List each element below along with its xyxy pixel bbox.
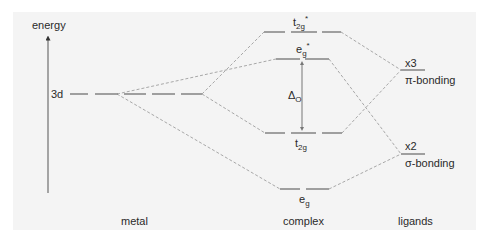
connector-3d-eg-star [117, 59, 276, 94]
level-label-eg-star: eg* [296, 44, 310, 55]
column-label-complex: complex [283, 216, 324, 227]
level-label-eg: eg [299, 194, 310, 205]
ligand-sigma-label: σ-bonding [405, 158, 455, 169]
connector-t2g-pi [342, 70, 401, 133]
column-label-ligands: ligands [398, 216, 433, 227]
connector-3d-t2g-star [202, 32, 264, 94]
connector-eg-sigma [329, 154, 401, 189]
connector-3d-eg [117, 94, 280, 189]
column-label-metal: metal [121, 216, 148, 227]
delta-o-label: ΔO [288, 90, 302, 101]
ligand-pi-multiplicity: x3 [405, 58, 417, 69]
ligand-sigma-multiplicity: x2 [405, 141, 417, 152]
ligand-pi-label: π-bonding [405, 75, 455, 86]
connector-t2g-star-pi [341, 32, 401, 70]
connector-eg-star-sigma [329, 59, 401, 154]
level-label-t2g-star: t2g* [293, 17, 308, 28]
energy-levels [70, 32, 425, 189]
connector-3d-t2g [202, 94, 265, 133]
connector-lines [117, 32, 401, 189]
energy-axis-label: energy [32, 20, 66, 31]
level-label-3d: 3d [51, 89, 63, 100]
mo-diagram [0, 0, 487, 243]
level-label-t2g: t2g [295, 138, 307, 149]
